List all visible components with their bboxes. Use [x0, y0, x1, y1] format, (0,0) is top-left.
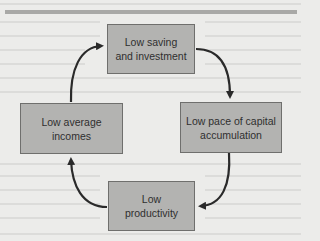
node-label-line: Low saving: [115, 35, 186, 49]
node-low-saving-and-investment: Low saving and investment: [107, 24, 195, 74]
node-label-line: incomes: [41, 129, 101, 143]
node-label-line: and investment: [115, 49, 186, 63]
arrow-productivity-to-incomes: [71, 160, 107, 207]
node-low-average-incomes: Low average incomes: [20, 103, 123, 154]
node-label-line: Low average: [41, 115, 101, 129]
node-low-productivity: Low productivity: [108, 181, 195, 231]
node-label-line: accumulation: [186, 128, 276, 142]
node-low-pace-of-capital-accumulation: Low pace of capital accumulation: [180, 102, 282, 153]
arrow-saving-to-capital: [196, 49, 230, 96]
node-label-line: productivity: [125, 206, 178, 220]
node-label-line: Low: [125, 192, 178, 206]
arrow-capital-to-productivity: [201, 153, 229, 206]
node-label-line: Low pace of capital: [186, 114, 276, 128]
arrow-incomes-to-saving: [71, 46, 101, 102]
